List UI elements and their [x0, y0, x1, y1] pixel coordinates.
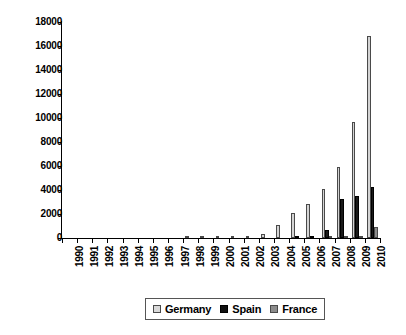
- x-axis-tick-label: 2009: [362, 246, 372, 267]
- bar-germany-2003: [261, 234, 265, 238]
- x-axis-tick-mark: [62, 239, 63, 243]
- x-axis-tick-label: 2002: [256, 246, 266, 267]
- bar-france-2008: [344, 236, 348, 238]
- y-axis-tick-mark: [58, 142, 62, 143]
- bar-germany-2006: [306, 204, 310, 238]
- legend-swatch-france-icon: [270, 305, 278, 313]
- y-axis-tick-label: 18000: [16, 17, 62, 27]
- x-axis-tick-label: 1995: [150, 246, 160, 267]
- x-axis-tick-label: 2001: [241, 246, 251, 267]
- x-axis-tick-mark: [107, 239, 108, 243]
- x-axis-tick-label: 2005: [302, 246, 312, 267]
- x-axis-tick-label: 2000: [226, 246, 236, 267]
- x-axis-tick-label: 2010: [377, 246, 387, 267]
- y-axis-tick-label: 12000: [16, 89, 62, 99]
- bar-chart: 0200040006000800010000120001400016000180…: [0, 0, 406, 335]
- bar-spain-2009: [355, 196, 359, 238]
- x-axis-tick-label: 1993: [120, 246, 130, 267]
- x-axis-tick-label: 1999: [211, 246, 221, 267]
- x-axis-tick-label: 1997: [181, 246, 191, 267]
- bar-spain-2008: [340, 199, 344, 238]
- x-axis-tick-mark: [213, 239, 214, 243]
- x-axis-tick-mark: [229, 239, 230, 243]
- y-axis-tick-label: 2000: [16, 209, 62, 219]
- y-axis-tick-mark: [58, 94, 62, 95]
- y-axis-tick-label: 16000: [16, 41, 62, 51]
- x-axis-tick-label: 2007: [332, 246, 342, 267]
- x-axis-tick-label: 2004: [287, 246, 297, 267]
- y-axis-tick-mark: [58, 70, 62, 71]
- x-axis-tick-mark: [198, 239, 199, 243]
- x-axis-tick-label: 1991: [90, 246, 100, 267]
- chart-legend: GermanySpainFrance: [145, 298, 325, 320]
- y-axis-tick-mark: [58, 166, 62, 167]
- bar-france-2007: [329, 236, 333, 238]
- x-axis-tick-label: 1998: [196, 246, 206, 267]
- bar-france-2010: [374, 227, 378, 238]
- bar-germany-2004: [276, 225, 280, 238]
- plot-area: [62, 22, 380, 238]
- bar-germany-2005: [291, 213, 295, 238]
- legend-item-france[interactable]: France: [270, 304, 317, 315]
- legend-swatch-germany-icon: [153, 305, 161, 313]
- y-axis-tick-mark: [58, 118, 62, 119]
- bar-germany-2002: [246, 236, 250, 238]
- x-axis-tick-mark: [304, 239, 305, 243]
- legend-label: France: [282, 304, 317, 315]
- x-axis-tick-mark: [153, 239, 154, 243]
- bar-germany-1998: [185, 236, 189, 238]
- x-axis-tick-mark: [259, 239, 260, 243]
- bar-france-2009: [359, 236, 363, 238]
- x-axis-tick-mark: [183, 239, 184, 243]
- x-axis-tick-mark: [380, 239, 381, 243]
- x-axis-tick-mark: [289, 239, 290, 243]
- x-axis-line: [61, 238, 381, 239]
- x-axis-tick-mark: [365, 239, 366, 243]
- y-axis-tick-mark: [58, 190, 62, 191]
- y-axis-ticks: 0200040006000800010000120001400016000180…: [0, 0, 62, 335]
- x-axis-tick-mark: [350, 239, 351, 243]
- legend-item-germany[interactable]: Germany: [153, 304, 211, 315]
- x-axis-tick-mark: [274, 239, 275, 243]
- x-axis-tick-label: 2003: [271, 246, 281, 267]
- x-axis-tick-mark: [168, 239, 169, 243]
- bar-germany-2000: [216, 236, 220, 238]
- x-axis-tick-mark: [92, 239, 93, 243]
- y-axis-tick-mark: [58, 238, 62, 239]
- bar-spain-2005: [295, 236, 299, 238]
- y-axis-tick-label: 4000: [16, 185, 62, 195]
- x-axis-tick-label: 1992: [105, 246, 115, 267]
- legend-label: Germany: [165, 304, 211, 315]
- y-axis-tick-mark: [58, 214, 62, 215]
- x-axis-tick-mark: [123, 239, 124, 243]
- x-axis-tick-mark: [138, 239, 139, 243]
- legend-swatch-spain-icon: [220, 305, 228, 313]
- bar-germany-2001: [231, 236, 235, 238]
- x-axis-tick-mark: [77, 239, 78, 243]
- y-axis-tick-label: 14000: [16, 65, 62, 75]
- y-axis-tick-label: 0: [16, 233, 62, 243]
- x-axis-tick-label: 2006: [317, 246, 327, 267]
- x-axis-tick-label: 1994: [135, 246, 145, 267]
- y-axis-tick-mark: [58, 22, 62, 23]
- bar-germany-1999: [200, 236, 204, 238]
- y-axis-tick-label: 10000: [16, 113, 62, 123]
- y-axis-tick-mark: [58, 46, 62, 47]
- y-axis-tick-label: 6000: [16, 161, 62, 171]
- legend-label: Spain: [232, 304, 261, 315]
- y-axis-tick-label: 8000: [16, 137, 62, 147]
- x-axis-tick-mark: [335, 239, 336, 243]
- x-axis-tick-label: 1990: [75, 246, 85, 267]
- x-axis-tick-label: 1996: [165, 246, 175, 267]
- bar-spain-2006: [310, 236, 314, 238]
- x-axis-tick-label: 2008: [347, 246, 357, 267]
- x-axis-tick-mark: [244, 239, 245, 243]
- legend-item-spain[interactable]: Spain: [220, 304, 261, 315]
- x-axis-tick-mark: [319, 239, 320, 243]
